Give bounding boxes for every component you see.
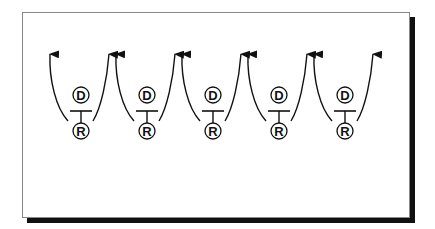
dr-unit: DR <box>182 54 241 139</box>
route-arrow-left <box>116 54 134 121</box>
defender-label: D <box>142 88 151 103</box>
route-arrow-left <box>182 54 200 121</box>
route-arrow-left <box>248 54 266 121</box>
route-arrow-left <box>50 54 68 121</box>
dr-unit: DR <box>248 54 307 139</box>
receiver-label: R <box>76 124 86 139</box>
dr-unit: DR <box>116 54 175 139</box>
defender-label: D <box>208 88 217 103</box>
route-arrow-right <box>159 54 175 121</box>
receiver-label: R <box>274 124 284 139</box>
dr-unit: DR <box>314 54 373 139</box>
defender-label: D <box>76 88 85 103</box>
route-arrow-left <box>314 54 332 121</box>
receiver-label: R <box>340 124 350 139</box>
defender-label: D <box>274 88 283 103</box>
dr-unit: DR <box>50 54 109 139</box>
receiver-label: R <box>208 124 218 139</box>
receiver-label: R <box>142 124 152 139</box>
route-arrow-right <box>225 54 241 121</box>
route-arrow-right <box>93 54 109 121</box>
route-arrow-right <box>291 54 307 121</box>
route-arrow-right <box>357 54 373 121</box>
defender-label: D <box>340 88 349 103</box>
diagram-canvas: DRDRDRDRDR <box>0 0 435 229</box>
